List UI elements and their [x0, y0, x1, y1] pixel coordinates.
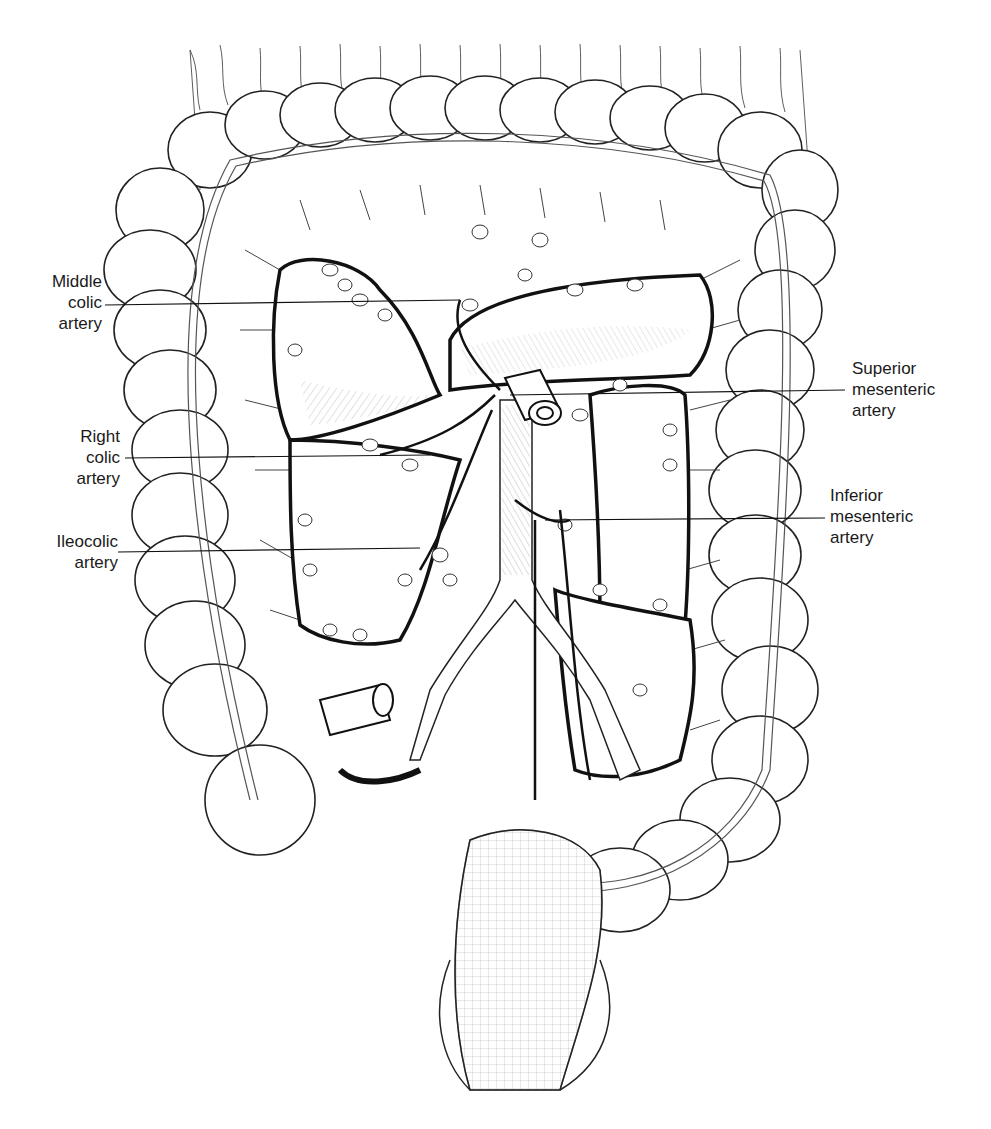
label-line: Ileocolic	[20, 531, 118, 552]
label-line: Right	[20, 426, 120, 447]
label-line: colic	[20, 292, 102, 313]
label-line: mesenteric	[830, 506, 960, 527]
label-line: Middle	[20, 271, 102, 292]
label-line: colic	[20, 447, 120, 468]
label-line: artery	[20, 468, 120, 489]
label-middle-colic-artery: Middle colic artery	[20, 271, 102, 334]
label-line: mesenteric	[852, 379, 982, 400]
colon-haustra	[104, 76, 838, 932]
colon-arterial-illustration	[0, 0, 991, 1129]
ileum-stump	[320, 684, 420, 782]
aorta-shading	[502, 405, 530, 575]
label-line: Inferior	[830, 485, 960, 506]
label-line: Superior	[852, 358, 982, 379]
label-inferior-mesenteric-artery: Inferior mesenteric artery	[830, 485, 960, 548]
label-ileocolic-artery: Ileocolic artery	[20, 531, 118, 573]
label-line: artery	[20, 552, 118, 573]
label-line: artery	[830, 527, 960, 548]
rectum	[440, 830, 610, 1090]
label-line: artery	[852, 400, 982, 421]
label-superior-mesenteric-artery: Superior mesenteric artery	[852, 358, 982, 421]
label-line: artery	[20, 313, 102, 334]
label-right-colic-artery: Right colic artery	[20, 426, 120, 489]
